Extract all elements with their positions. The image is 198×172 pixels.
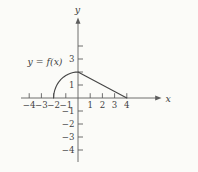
y-tick-label: 3 [69,54,74,64]
curve-annotation: y = f(x) [27,56,63,67]
x-tick-label: −3 [35,100,48,110]
y-tick-label: 1 [69,80,74,90]
function-plot-figure: −4−3−2−11234−4−3−2−113 x y y = f(x) [0,0,198,172]
plot-svg: −4−3−2−11234−4−3−2−113 x y y = f(x) [0,0,198,172]
y-tick-label: −3 [62,132,75,142]
y-tick-label: −4 [62,145,75,155]
x-tick-label: 3 [112,100,117,110]
x-tick-label: 2 [100,100,105,110]
x-tick-label: −2 [47,100,60,110]
y-axis-label: y [74,4,81,15]
y-tick-label: −1 [62,106,75,116]
x-tick-label: 1 [87,100,92,110]
x-tick-label: 4 [124,100,130,110]
y-tick-label: −2 [62,119,75,129]
x-axis-label: x [166,93,172,104]
y-axis-arrow-icon [76,18,81,24]
x-axis-arrow-icon [155,96,161,101]
